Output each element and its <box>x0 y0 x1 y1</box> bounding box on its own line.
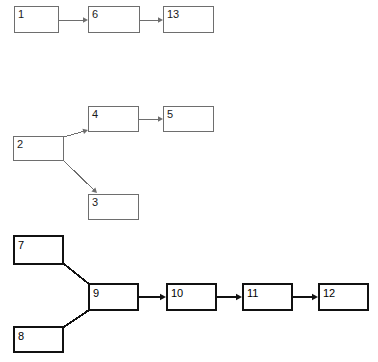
edge-line <box>64 310 89 327</box>
edge-10-to-11 <box>217 294 242 300</box>
node-box-12[interactable]: 12 <box>318 283 369 311</box>
node-label-4: 4 <box>92 108 98 120</box>
node-label-11: 11 <box>247 287 258 299</box>
flow-diagram-canvas: 16134523791011128 <box>0 0 378 362</box>
node-label-12: 12 <box>323 287 335 299</box>
node-label-6: 6 <box>92 8 98 20</box>
arrowhead-icon <box>91 188 97 193</box>
node-label-9: 9 <box>93 287 99 299</box>
node-box-3[interactable]: 3 <box>88 194 139 220</box>
node-label-8: 8 <box>18 330 24 342</box>
edge-line <box>64 131 84 137</box>
node-label-5: 5 <box>167 108 173 120</box>
edge-2-to-3 <box>64 161 97 193</box>
node-label-1: 1 <box>18 8 24 20</box>
node-box-6[interactable]: 6 <box>88 6 140 33</box>
node-box-10[interactable]: 10 <box>166 283 217 311</box>
edge-line <box>64 161 94 190</box>
node-box-2[interactable]: 2 <box>13 136 64 161</box>
edge-4-to-5 <box>139 116 163 122</box>
edge-7-to-9 <box>64 264 89 284</box>
node-label-13: 13 <box>167 8 179 20</box>
edge-6-to-13 <box>140 17 163 23</box>
node-box-5[interactable]: 5 <box>163 106 214 132</box>
node-box-11[interactable]: 11 <box>242 283 293 311</box>
node-box-9[interactable]: 9 <box>88 283 139 311</box>
edge-line <box>64 264 89 284</box>
edge-1-to-6 <box>59 17 88 23</box>
edge-11-to-12 <box>293 294 318 300</box>
edge-9-to-10 <box>139 294 166 300</box>
edge-2-to-4 <box>64 129 88 137</box>
node-label-2: 2 <box>17 138 23 150</box>
node-label-7: 7 <box>18 239 24 251</box>
node-box-13[interactable]: 13 <box>163 6 214 33</box>
edge-8-to-9 <box>64 310 89 327</box>
node-box-7[interactable]: 7 <box>13 235 64 265</box>
node-box-1[interactable]: 1 <box>14 6 59 33</box>
node-box-4[interactable]: 4 <box>88 106 139 132</box>
node-box-8[interactable]: 8 <box>13 326 64 353</box>
node-label-10: 10 <box>171 287 183 299</box>
node-label-3: 3 <box>92 196 98 208</box>
